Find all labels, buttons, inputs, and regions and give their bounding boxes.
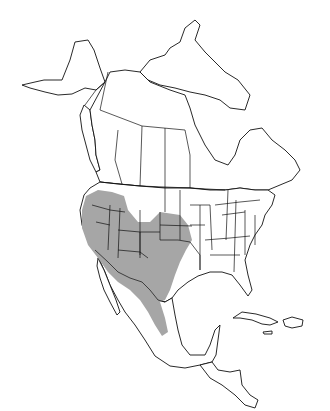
jamaica: [263, 331, 272, 334]
north-america-range-map: [0, 0, 330, 411]
cuba: [233, 312, 278, 325]
central-america: [200, 362, 258, 408]
alaska: [22, 40, 105, 95]
hispaniola: [283, 317, 303, 328]
